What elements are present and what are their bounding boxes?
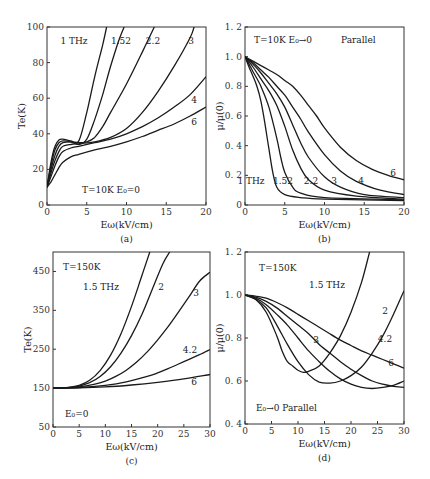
x-tick-label: 15 bbox=[161, 207, 173, 217]
x-tick-label: 10 bbox=[319, 207, 331, 217]
panel-caption: (c) bbox=[125, 456, 137, 466]
x-tick-label: 25 bbox=[372, 426, 384, 436]
series-label: 2.2 bbox=[146, 36, 160, 46]
series-label: 1.52 bbox=[111, 36, 131, 46]
y-tick-label: 0. 6 bbox=[225, 111, 242, 121]
y-tick-label: 0 bbox=[38, 200, 44, 210]
y-tick-label: 0. 8 bbox=[225, 81, 242, 91]
series-label: 3 bbox=[193, 288, 199, 298]
series-label: 3 bbox=[331, 176, 337, 186]
series-curve bbox=[245, 295, 404, 368]
panel-c: 05101520253050150250350450Eω(kV/cm)Te(K)… bbox=[22, 252, 216, 466]
x-tick-label: 20 bbox=[398, 207, 410, 217]
y-tick-label: 1. 0 bbox=[225, 290, 242, 300]
x-axis-label: Eω(kV/cm) bbox=[298, 219, 350, 230]
panel-annotation: T=10K E₀=0 bbox=[82, 185, 140, 195]
panel-caption: (a) bbox=[120, 234, 132, 244]
y-tick-label: 0. 6 bbox=[225, 376, 242, 386]
series-label: 1.5 THz bbox=[83, 282, 119, 292]
y-tick-label: 450 bbox=[33, 266, 50, 276]
y-tick-label: 1. 2 bbox=[225, 247, 242, 257]
y-tick-label: 250 bbox=[33, 344, 50, 354]
panel-d: 0510152025300. 40. 60. 81. 01. 2Eω(kV/cm… bbox=[214, 247, 410, 463]
y-tick-label: 100 bbox=[27, 22, 44, 32]
panel-annotation: T=150K bbox=[63, 262, 101, 272]
y-axis-label: μ/μ(0) bbox=[214, 101, 225, 130]
y-tick-label: 0 bbox=[236, 200, 242, 210]
y-tick-label: 50 bbox=[39, 422, 51, 432]
x-tick-label: 20 bbox=[152, 429, 164, 439]
series-label: 4 bbox=[191, 95, 197, 105]
x-tick-label: 10 bbox=[121, 207, 133, 217]
y-tick-label: 40 bbox=[33, 129, 45, 139]
series-curve bbox=[47, 27, 124, 187]
x-tick-label: 0 bbox=[242, 207, 248, 217]
panel-annotation: T=10K E₀→0 bbox=[254, 35, 312, 45]
y-tick-label: 20 bbox=[33, 164, 45, 174]
y-tick-label: 1. 2 bbox=[225, 22, 242, 32]
series-label: 3 bbox=[313, 335, 319, 345]
y-axis-label: Te(K) bbox=[16, 103, 27, 129]
series-label: 6 bbox=[191, 117, 197, 127]
series-label: 1 THz bbox=[237, 176, 264, 186]
y-tick-label: 0. 4 bbox=[225, 141, 242, 151]
x-tick-label: 5 bbox=[282, 207, 288, 217]
x-tick-label: 20 bbox=[345, 426, 357, 436]
series-curve bbox=[53, 252, 150, 388]
y-axis-label: μ/μ(0) bbox=[214, 323, 225, 352]
series-label: 1.52 bbox=[273, 176, 293, 186]
x-tick-label: 0 bbox=[242, 426, 248, 436]
series-curve bbox=[53, 252, 170, 388]
series-label: 6 bbox=[390, 168, 396, 178]
x-tick-label: 20 bbox=[200, 207, 212, 217]
series-label: 6 bbox=[191, 377, 197, 387]
series-label: 6 bbox=[388, 358, 394, 368]
panel-annotation: T=150K bbox=[259, 263, 297, 273]
series-label: 2.2 bbox=[304, 176, 318, 186]
series-label: 4.2 bbox=[183, 345, 197, 355]
series-curve bbox=[53, 350, 210, 389]
series-curve bbox=[47, 77, 206, 187]
x-tick-label: 15 bbox=[359, 207, 371, 217]
y-tick-label: 80 bbox=[33, 58, 45, 68]
series-label: 1 THz bbox=[60, 36, 87, 46]
y-tick-label: 1. 0 bbox=[225, 52, 242, 62]
panel-caption: (d) bbox=[318, 453, 331, 463]
x-tick-label: 5 bbox=[84, 207, 90, 217]
y-tick-label: 150 bbox=[33, 383, 50, 393]
panel-caption: (b) bbox=[318, 234, 331, 244]
series-label: 1.5 THz bbox=[309, 280, 345, 290]
series-label: 2 bbox=[158, 282, 164, 292]
series-label: 4.2 bbox=[378, 334, 392, 344]
y-tick-label: 60 bbox=[33, 93, 45, 103]
panel-annotation: E₀→0 Parallel bbox=[256, 403, 317, 413]
panel-a: 05101520020406080100Eω(kV/cm)Te(K)(a)1 T… bbox=[16, 22, 212, 244]
series-curve bbox=[245, 57, 404, 195]
figure-canvas: 05101520020406080100Eω(kV/cm)Te(K)(a)1 T… bbox=[0, 0, 430, 479]
plot-frame bbox=[53, 252, 210, 427]
x-tick-label: 15 bbox=[126, 429, 138, 439]
series-curve bbox=[47, 107, 206, 187]
x-tick-label: 15 bbox=[319, 426, 331, 436]
series-curve bbox=[245, 57, 404, 180]
x-tick-label: 5 bbox=[269, 426, 275, 436]
x-tick-label: 25 bbox=[178, 429, 190, 439]
x-tick-label: 0 bbox=[50, 429, 56, 439]
plot-frame bbox=[245, 27, 404, 205]
y-axis-label: Te(K) bbox=[22, 327, 33, 353]
series-label: 3 bbox=[188, 36, 194, 46]
x-axis-label: Eω(kV/cm) bbox=[105, 441, 157, 452]
x-tick-label: 30 bbox=[398, 426, 410, 436]
series-label: 4 bbox=[358, 176, 364, 186]
x-tick-label: 30 bbox=[204, 429, 216, 439]
panel-b: 0510152000. 20. 40. 60. 81. 01. 2Eω(kV/c… bbox=[214, 22, 410, 244]
y-tick-label: 0. 4 bbox=[225, 419, 242, 429]
series-curve bbox=[47, 27, 194, 187]
x-tick-label: 5 bbox=[76, 429, 82, 439]
x-axis-label: Eω(kV/cm) bbox=[298, 438, 350, 449]
panel-annotation: E₀=0 bbox=[65, 409, 89, 419]
panel-annotation: Parallel bbox=[341, 35, 376, 45]
x-tick-label: 0 bbox=[44, 207, 50, 217]
x-tick-label: 10 bbox=[292, 426, 304, 436]
x-axis-label: Eω(kV/cm) bbox=[100, 219, 152, 230]
